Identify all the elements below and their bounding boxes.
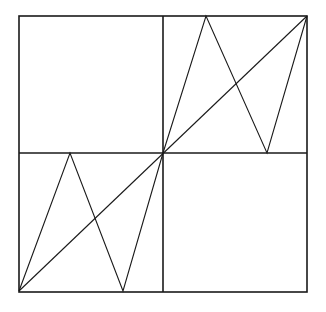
geometry-diagram	[0, 0, 326, 312]
